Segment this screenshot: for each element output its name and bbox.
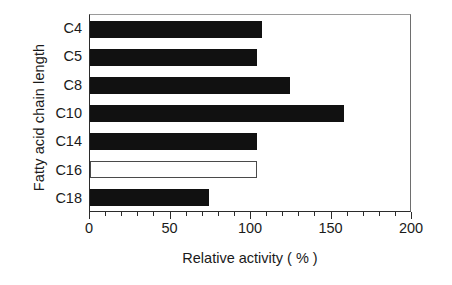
x-minor-tick xyxy=(137,212,138,216)
y-axis-tick-labels: C4 C5 C8 C10 C14 C16 C18 xyxy=(30,14,86,212)
x-minor-tick xyxy=(121,212,122,216)
bar-chart-figure: Fatty acid chain length C4 C5 C8 C10 C14… xyxy=(0,0,452,285)
bar-row xyxy=(90,43,410,71)
x-tick-label: 150 xyxy=(318,220,342,236)
plot-area xyxy=(89,14,411,212)
x-major-tick xyxy=(331,212,332,219)
x-axis-title: Relative activity ( % ) xyxy=(89,250,411,266)
bar-c5 xyxy=(90,49,257,66)
bar-series xyxy=(90,15,410,211)
bar-c18 xyxy=(90,189,209,206)
x-minor-tick xyxy=(105,212,106,216)
x-minor-tick xyxy=(347,212,348,216)
x-axis-tick-labels: 050100150200 xyxy=(89,220,411,240)
x-major-tick xyxy=(170,212,171,219)
y-tick-label: C4 xyxy=(30,14,86,42)
x-minor-tick xyxy=(186,212,187,216)
y-tick-label: C18 xyxy=(30,184,86,212)
x-tick-label: 100 xyxy=(238,220,262,236)
bar-row xyxy=(90,183,410,211)
y-tick-label: C14 xyxy=(30,127,86,155)
bar-row xyxy=(90,155,410,183)
x-axis-ticks xyxy=(89,212,411,219)
x-minor-tick xyxy=(282,212,283,216)
bar-c4 xyxy=(90,21,262,38)
y-tick-label: C16 xyxy=(30,155,86,183)
bar-row xyxy=(90,15,410,43)
bar-c8 xyxy=(90,77,290,94)
bar-c10 xyxy=(90,105,344,122)
x-tick-label: 200 xyxy=(399,220,423,236)
y-tick-label: C10 xyxy=(30,99,86,127)
x-minor-tick xyxy=(298,212,299,216)
x-minor-tick xyxy=(395,212,396,216)
bar-row xyxy=(90,71,410,99)
x-minor-tick xyxy=(266,212,267,216)
x-major-tick xyxy=(89,212,90,219)
x-minor-tick xyxy=(314,212,315,216)
bar-row xyxy=(90,99,410,127)
x-minor-tick xyxy=(153,212,154,216)
y-tick-label: C5 xyxy=(30,42,86,70)
x-major-tick xyxy=(411,212,412,219)
x-major-tick xyxy=(250,212,251,219)
y-tick-label: C8 xyxy=(30,71,86,99)
x-minor-tick xyxy=(202,212,203,216)
bar-c16 xyxy=(90,161,257,178)
bar-row xyxy=(90,127,410,155)
x-tick-label: 50 xyxy=(161,220,177,236)
x-minor-tick xyxy=(379,212,380,216)
x-minor-tick xyxy=(363,212,364,216)
x-minor-tick xyxy=(234,212,235,216)
bar-c14 xyxy=(90,133,257,150)
x-minor-tick xyxy=(218,212,219,216)
x-tick-label: 0 xyxy=(85,220,93,236)
